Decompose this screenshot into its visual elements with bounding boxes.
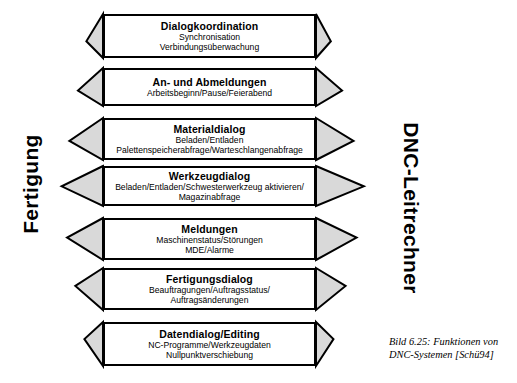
dialog-row: FertigungsdialogBeauftragungen/Auftragss… bbox=[103, 268, 316, 310]
dialog-row: WerkzeugdialogBeladen/Entladen/Schwester… bbox=[103, 166, 316, 206]
right-axis-label-dnc-leitrechner: DNC-Leitrechner bbox=[399, 108, 423, 308]
dialog-row-subtitle: Palettenspeicherabfrage/Warteschlangenab… bbox=[116, 145, 302, 155]
arrowhead-left-row-3 bbox=[62, 166, 103, 206]
dialog-row-subtitle: Magazinabfrage bbox=[179, 192, 241, 202]
dialog-row-subtitle: Maschinenstatus/Störungen bbox=[156, 235, 263, 245]
dialog-row: An- und AbmeldungenArbeitsbeginn/Pause/F… bbox=[103, 68, 316, 106]
arrowhead-right-row-0 bbox=[316, 14, 331, 58]
arrowhead-left-row-2 bbox=[69, 118, 103, 160]
left-axis-label-fertigung: Fertigung bbox=[19, 99, 43, 269]
arrowhead-left-row-5 bbox=[75, 268, 103, 310]
dialog-row-subtitle: Beauftragungen/Auftragsstatus/ bbox=[149, 285, 270, 295]
dialog-row-subtitle: Synchronisation bbox=[179, 32, 240, 42]
dialog-row-title: Meldungen bbox=[181, 223, 237, 235]
dialog-row-title: An- und Abmeldungen bbox=[152, 76, 266, 88]
dialog-row-subtitle: NC-Programme/Werkzeugdaten bbox=[148, 340, 271, 350]
dialog-row-title: Datendialog/Editing bbox=[159, 328, 259, 340]
arrowhead-left-row-6 bbox=[84, 322, 103, 366]
arrowhead-left-row-1 bbox=[78, 68, 103, 106]
dialog-row-title: Werkzeugdialog bbox=[169, 170, 251, 182]
figure-caption: Bild 6.25: Funktionen von DNC-Systemen [… bbox=[389, 335, 515, 361]
arrowhead-right-row-3 bbox=[316, 166, 364, 206]
dialog-row-subtitle: Beladen/Entladen bbox=[176, 135, 244, 145]
dialog-row: DialogkoordinationSynchronisationVerbind… bbox=[103, 14, 316, 58]
dialog-row: MaterialdialogBeladen/EntladenPalettensp… bbox=[103, 118, 316, 160]
dialog-row-title: Dialogkoordination bbox=[161, 20, 258, 32]
dialog-row: Datendialog/EditingNC-Programme/Werkzeug… bbox=[103, 322, 316, 366]
dialog-row-subtitle: Verbindungsüberwachung bbox=[160, 42, 259, 52]
dialog-row-subtitle: Beladen/Entladen/Schwesterwerkzeug aktiv… bbox=[115, 182, 304, 192]
dialog-row-title: Fertigungsdialog bbox=[166, 273, 253, 285]
arrowhead-right-row-1 bbox=[316, 68, 342, 106]
dialog-row: MeldungenMaschinenstatus/StörungenMDE/Al… bbox=[103, 218, 316, 260]
arrowhead-right-row-4 bbox=[316, 218, 357, 260]
diagram-canvas: DialogkoordinationSynchronisationVerbind… bbox=[0, 0, 517, 383]
dialog-row-subtitle: Nullpunktverschiebung bbox=[166, 350, 253, 360]
dialog-row-subtitle: Auftragsänderungen bbox=[171, 295, 249, 305]
arrowhead-left-row-4 bbox=[67, 218, 103, 260]
dialog-row-subtitle: MDE/Alarme bbox=[185, 245, 234, 255]
arrowhead-left-row-0 bbox=[86, 14, 103, 58]
arrowhead-right-row-6 bbox=[316, 322, 333, 366]
arrowhead-right-row-2 bbox=[316, 118, 353, 160]
dialog-row-subtitle: Arbeitsbeginn/Pause/Feierabend bbox=[147, 88, 272, 98]
dialog-row-title: Materialdialog bbox=[174, 123, 246, 135]
arrowhead-right-row-5 bbox=[316, 268, 346, 310]
